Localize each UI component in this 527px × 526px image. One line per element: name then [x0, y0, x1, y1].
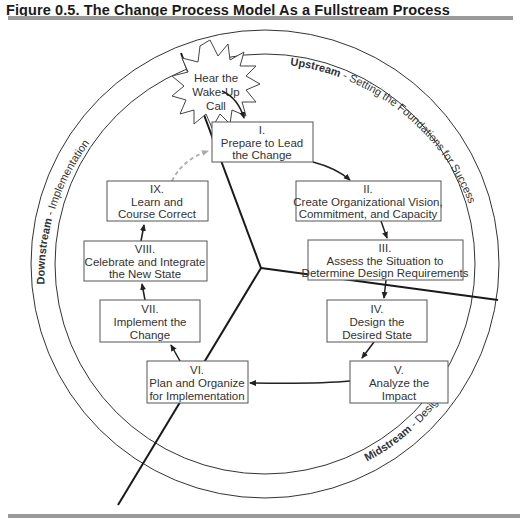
svg-text:for Implementation: for Implementation — [149, 390, 244, 402]
stage-3-box[interactable]: III. Assess the Situation to Determine D… — [302, 240, 469, 280]
svg-text:VI.: VI. — [190, 364, 204, 376]
feedback-dashed-arrow — [172, 151, 208, 181]
stage-5-box[interactable]: V. Analyze the Impact — [350, 361, 448, 403]
svg-text:Learn and: Learn and — [131, 196, 183, 208]
svg-text:Wake-Up: Wake-Up — [192, 86, 240, 98]
svg-text:Design the: Design the — [350, 316, 405, 328]
svg-text:Celebrate and Integrate: Celebrate and Integrate — [85, 256, 206, 268]
stage-6-box[interactable]: VI. Plan and Organize for Implementation — [147, 361, 248, 403]
stage-4-box[interactable]: IV. Design the Desired State — [327, 300, 427, 342]
stage-8-box[interactable]: VIII. Celebrate and Integrate the New St… — [84, 241, 207, 281]
stage-1-box[interactable]: I. Prepare to Lead the Change — [212, 122, 313, 162]
svg-text:Plan and Organize: Plan and Organize — [149, 377, 244, 389]
svg-text:Course Correct: Course Correct — [118, 208, 197, 220]
wake-up-call-starburst: Hear the Wake-Up Call — [172, 40, 260, 128]
svg-text:Assess the Situation to: Assess the Situation to — [327, 255, 444, 267]
svg-text:IX.: IX. — [150, 183, 164, 195]
svg-text:I.: I. — [259, 124, 265, 136]
svg-text:Implement the: Implement the — [114, 316, 187, 328]
svg-text:Change: Change — [130, 329, 170, 341]
svg-text:II.: II. — [363, 183, 373, 195]
svg-text:Prepare to Lead: Prepare to Lead — [221, 137, 303, 149]
svg-text:Impact: Impact — [382, 390, 417, 402]
svg-text:Analyze the: Analyze the — [369, 377, 429, 389]
bottom-rule — [8, 514, 520, 518]
svg-text:IV.: IV. — [370, 303, 383, 315]
svg-text:Create Organizational Vision,: Create Organizational Vision, — [293, 196, 442, 208]
stage-9-box[interactable]: IX. Learn and Course Correct — [107, 181, 208, 221]
svg-text:Desired State: Desired State — [342, 329, 412, 341]
svg-text:Determine Design Requirements: Determine Design Requirements — [302, 267, 469, 279]
svg-text:VII.: VII. — [141, 303, 158, 315]
svg-text:Call: Call — [206, 100, 226, 112]
svg-text:Hear the: Hear the — [194, 72, 238, 84]
change-process-diagram: Upstream - Setting the Foundations for S… — [0, 0, 527, 526]
svg-text:the New State: the New State — [109, 268, 181, 280]
stage-7-box[interactable]: VII. Implement the Change — [100, 300, 200, 342]
svg-text:the Change: the Change — [232, 149, 291, 161]
svg-text:VIII.: VIII. — [135, 243, 155, 255]
svg-text:V.: V. — [394, 364, 404, 376]
svg-text:III.: III. — [379, 242, 392, 254]
stage-2-box[interactable]: II. Create Organizational Vision, Commit… — [293, 181, 442, 221]
svg-text:Commitment, and Capacity: Commitment, and Capacity — [299, 208, 438, 220]
